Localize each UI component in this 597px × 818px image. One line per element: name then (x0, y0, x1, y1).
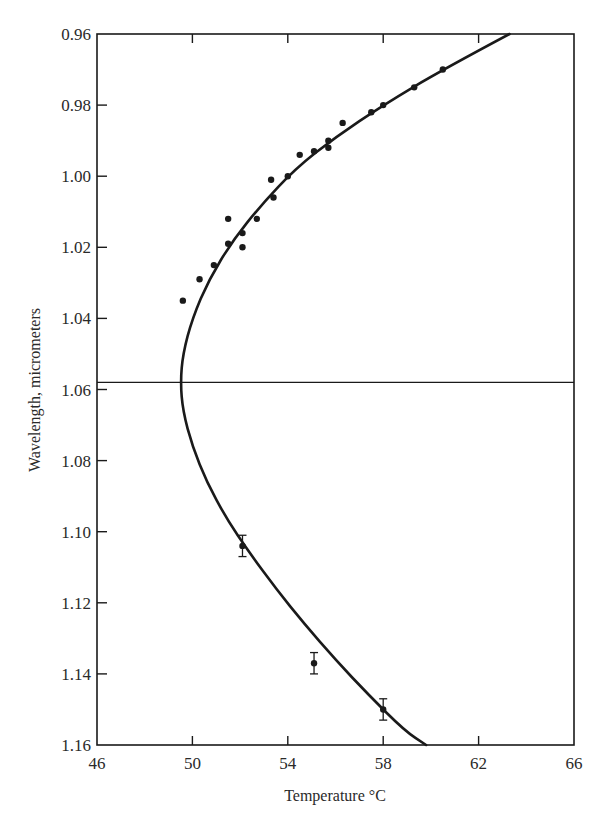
y-tick-label: 0.96 (61, 25, 91, 44)
y-tick-label: 1.16 (61, 736, 91, 755)
y-tick-label: 1.00 (61, 167, 91, 186)
y-axis-label: Wavelength, micrometers (26, 308, 44, 472)
y-axis-ticks: 0.960.981.001.021.041.061.081.101.121.14… (61, 25, 107, 755)
y-tick-label: 0.98 (61, 96, 91, 115)
data-points (180, 66, 446, 720)
data-point (339, 120, 345, 126)
x-tick-label: 50 (184, 754, 201, 773)
x-axis-label: Temperature °C (284, 787, 386, 805)
y-tick-label: 1.10 (61, 523, 91, 542)
x-tick-label: 54 (279, 754, 297, 773)
y-tick-label: 1.02 (61, 238, 91, 257)
data-point (380, 706, 386, 712)
data-point-errorbar (310, 653, 318, 674)
data-point (254, 216, 260, 222)
y-tick-label: 1.12 (61, 594, 91, 613)
y-tick-label: 1.14 (61, 665, 91, 684)
x-tick-label: 58 (375, 754, 392, 773)
data-point (211, 262, 217, 268)
data-point (239, 230, 245, 236)
data-point (368, 109, 374, 115)
y-tick-label: 1.08 (61, 452, 91, 471)
y-tick-label: 1.04 (61, 309, 91, 328)
data-point (285, 173, 291, 179)
data-point (325, 137, 331, 143)
y-tick-label: 1.06 (61, 381, 91, 400)
data-point (180, 297, 186, 303)
data-point (225, 216, 231, 222)
data-point (225, 241, 231, 247)
fit-curve (181, 34, 510, 745)
x-tick-label: 46 (89, 754, 106, 773)
data-point (325, 145, 331, 151)
data-point (239, 244, 245, 250)
fit-curve-path (181, 34, 510, 745)
data-point-errorbar (379, 699, 387, 720)
data-point (196, 276, 202, 282)
chart: 465054586266 0.960.981.001.021.041.061.0… (0, 0, 597, 818)
plot-border (97, 34, 574, 745)
data-point (297, 152, 303, 158)
data-point (311, 148, 317, 154)
x-axis-ticks: 465054586266 (89, 34, 583, 773)
data-point (268, 177, 274, 183)
data-point (380, 102, 386, 108)
x-tick-label: 62 (470, 754, 487, 773)
data-point (440, 66, 446, 72)
data-point (270, 194, 276, 200)
data-point (239, 543, 245, 549)
x-tick-label: 66 (566, 754, 583, 773)
data-point (411, 84, 417, 90)
plot-frame (97, 34, 574, 745)
data-point (311, 660, 317, 666)
